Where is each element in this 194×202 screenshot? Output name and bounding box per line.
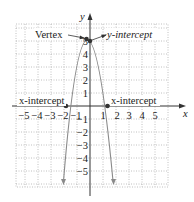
x-tick: 3 (126, 110, 131, 121)
x-tick: −5 (18, 110, 29, 121)
y-tick: 2 (83, 75, 88, 86)
y-intercept-point (88, 39, 93, 44)
x-tick: −2 (57, 110, 68, 121)
y-intercept-label: y-intercept (106, 29, 153, 40)
y-axis-arrow-icon (88, 13, 93, 20)
y-tick: −5 (77, 166, 88, 177)
y-tick: −3 (77, 140, 88, 151)
x-tick: 4 (139, 110, 145, 121)
parabola-graph: x y −5 −4 −3 −2 −1 1 2 3 4 5 5 4 3 2 1 −… (0, 0, 194, 202)
x-intercept-left-label: x-intercept (19, 95, 65, 106)
y-tick: −4 (77, 153, 89, 164)
y-tick: 4 (83, 49, 89, 60)
x-tick: −3 (44, 110, 55, 121)
x-intercept-right-label: x-intercept (111, 95, 157, 106)
x-tick: 5 (152, 110, 157, 121)
y-axis-label: y (79, 11, 85, 22)
y-tick: −1 (77, 114, 88, 125)
y-tick: 3 (83, 62, 88, 73)
axes (12, 18, 182, 196)
x-tick: −4 (31, 110, 43, 121)
x-intercept-right-point (105, 104, 110, 109)
y-tick: −2 (77, 127, 88, 138)
x-axis-label: x (182, 108, 188, 119)
x-tick: 1 (100, 110, 105, 121)
vertex-label: Vertex (35, 29, 63, 40)
x-tick: 2 (114, 110, 119, 121)
y-tick: 1 (83, 88, 88, 99)
